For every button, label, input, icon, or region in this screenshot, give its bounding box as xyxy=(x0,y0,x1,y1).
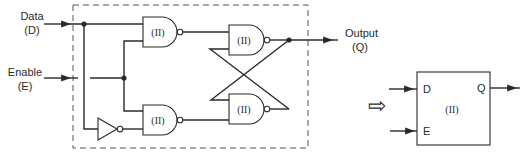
block-pin-d: D xyxy=(423,83,431,95)
svg-text:(II): (II) xyxy=(151,115,164,127)
latch-block-symbol: D E Q (II) xyxy=(389,72,520,145)
d-latch-diagram: Data (D) Enable (E) (II) (II) xyxy=(0,0,531,160)
svg-text:(II): (II) xyxy=(151,27,164,39)
svg-text:(E): (E) xyxy=(18,80,33,92)
data-input-label: Data (D) xyxy=(20,10,44,36)
svg-text:(D): (D) xyxy=(24,24,39,36)
enable-wire xyxy=(44,41,143,111)
data-wire xyxy=(44,21,143,129)
nand-gate-top-right: (II) xyxy=(229,25,289,55)
output-label: Output (Q) xyxy=(345,27,378,53)
svg-text:Enable: Enable xyxy=(8,66,42,78)
svg-text:(II): (II) xyxy=(237,104,250,116)
inverter-gate xyxy=(98,118,143,140)
svg-text:Data: Data xyxy=(20,10,44,22)
nand-gate-bottom-left: (II) xyxy=(143,105,229,135)
inverter-bubble-icon xyxy=(117,126,123,132)
svg-text:(Q): (Q) xyxy=(352,41,368,53)
svg-text:Output: Output xyxy=(345,27,378,39)
enable-input-label: Enable (E) xyxy=(8,66,42,92)
nand-gate-bottom-right: (II) xyxy=(229,94,289,124)
equivalence-arrow-icon: ⇨ xyxy=(368,93,386,118)
block-pin-q: Q xyxy=(477,82,486,94)
block-pin-e: E xyxy=(423,125,430,137)
block-label: (II) xyxy=(445,104,458,116)
svg-text:(II): (II) xyxy=(237,35,250,47)
nand-gate-top-left: (II) xyxy=(143,17,229,47)
